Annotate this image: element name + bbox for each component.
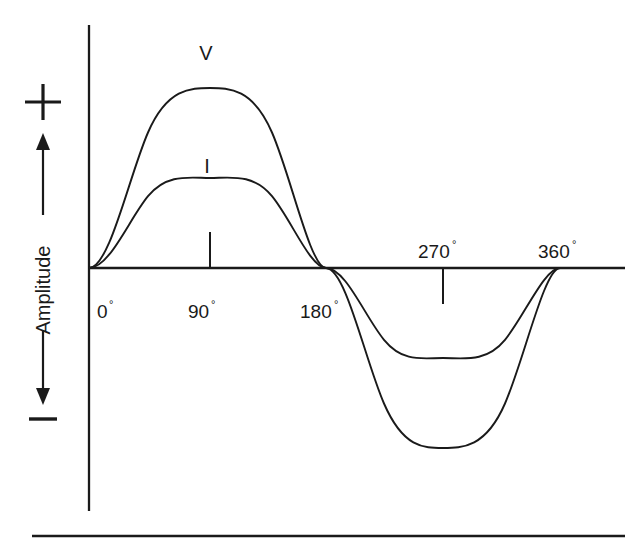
x-tick-label-0-text: 0 (97, 301, 108, 322)
x-tick-label-0: 0 ° (97, 298, 113, 322)
y-axis-title: Amplitude (32, 246, 54, 335)
x-tick-label-90-degree: ° (211, 298, 215, 310)
x-tick-label-180-text: 180 (300, 301, 332, 322)
down-arrow-icon (36, 330, 50, 405)
x-tick-label-0-degree: ° (109, 298, 113, 310)
x-tick-label-270-text: 270 (418, 241, 450, 262)
x-tick-label-90-text: 90 (188, 301, 209, 322)
up-arrow-icon (36, 133, 50, 215)
sine-wave-plot: Amplitude V I 0 ° (0, 0, 637, 541)
x-tick-label-270: 270 ° (418, 238, 456, 262)
x-tick-label-270-degree: ° (452, 238, 456, 250)
plus-sign-icon (25, 84, 61, 120)
x-tick-label-360-degree: ° (572, 238, 576, 250)
current-curve-label: I (204, 155, 210, 177)
x-tick-label-180: 180 ° (300, 298, 338, 322)
x-tick-label-360: 360 ° (538, 238, 576, 262)
voltage-curve-label: V (199, 42, 213, 64)
sine-wave-figure: Amplitude V I 0 ° (0, 0, 637, 541)
x-tick-label-180-degree: ° (334, 298, 338, 310)
x-tick-label-90: 90 ° (188, 298, 215, 322)
x-tick-label-360-text: 360 (538, 241, 570, 262)
y-axis-annotation-group: Amplitude (25, 84, 61, 419)
